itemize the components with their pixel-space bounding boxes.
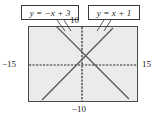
plot-area: [28, 26, 138, 102]
x-axis-max-label: 15: [142, 59, 151, 69]
line-negative-slope: [56, 27, 129, 99]
line-positive-slope: [42, 28, 113, 100]
y-axis-min-label: −10: [72, 104, 86, 114]
equation-callout-positive-slope: y = x + 1: [88, 5, 140, 20]
plot-canvas: [29, 27, 137, 101]
y-axis-max-label: 10: [70, 15, 79, 25]
graph-figure: y = −x + 3 y = x + 1 −15 15 10 −10: [0, 0, 162, 119]
x-axis-min-label: −15: [2, 59, 16, 69]
